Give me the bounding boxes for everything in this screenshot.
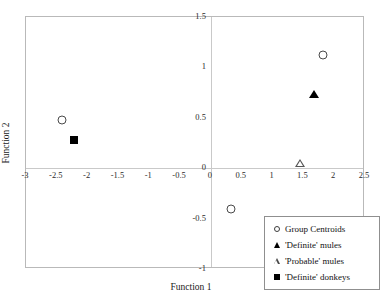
legend-item-label: Group Centroids (283, 224, 345, 234)
y-tick-label: 1 (184, 62, 206, 71)
open-circle-glyph (274, 226, 280, 232)
x-tick-label: -2.5 (49, 171, 62, 180)
filled-square-glyph (274, 274, 280, 280)
data-point-open-triangle (295, 159, 305, 167)
filled-triangle-glyph (274, 242, 280, 248)
x-tick-label: -3 (21, 171, 28, 180)
open-triangle-glyph (274, 258, 280, 264)
x-tick-label: -0.5 (172, 171, 185, 180)
x-tick-label: 0 (208, 171, 212, 180)
filled-triangle-icon (270, 242, 283, 248)
legend-item-label: 'Probable' mules (283, 256, 344, 266)
x-tick-label: 1 (269, 171, 273, 180)
x-tick-label: 2 (331, 171, 335, 180)
legend-item: Group Centroids (270, 221, 375, 237)
data-point-filled-triangle (309, 90, 319, 98)
y-tick-label: 1.5 (184, 12, 206, 21)
data-point-open-circle (319, 51, 328, 60)
y-tick-label: 0 (184, 163, 206, 172)
x-tick-label: -1 (145, 171, 152, 180)
axis-line-vertical (211, 17, 212, 267)
open-circle-icon (270, 226, 283, 232)
y-axis-title: Function 2 (1, 113, 11, 173)
legend-item: 'Probable' mules (270, 253, 375, 269)
scatter-plot-figure: -3-2.5-2-1.5-1-0.500.511.522.5 -1-0.500.… (0, 0, 382, 300)
x-tick-label: 2.5 (359, 171, 370, 180)
x-tick-label: -2 (83, 171, 90, 180)
legend-item-label: 'Definite' mules (283, 240, 341, 250)
y-tick-label: 0.5 (184, 112, 206, 121)
x-tick-label: 1.5 (297, 171, 308, 180)
open-triangle-icon (270, 258, 283, 264)
y-tick-label: -0.5 (184, 213, 206, 222)
data-point-open-circle (227, 204, 236, 213)
legend-item: 'Definite' donkeys (270, 269, 375, 285)
y-tick-label: -1 (184, 264, 206, 273)
legend: Group Centroids'Definite' mules'Probable… (264, 216, 380, 290)
legend-item: 'Definite' mules (270, 237, 375, 253)
x-tick-label: -1.5 (111, 171, 124, 180)
data-point-open-circle (57, 115, 66, 124)
x-tick-label: 0.5 (235, 171, 246, 180)
filled-square-icon (270, 274, 283, 280)
legend-item-label: 'Definite' donkeys (283, 272, 350, 282)
data-point-filled-square (70, 136, 78, 144)
